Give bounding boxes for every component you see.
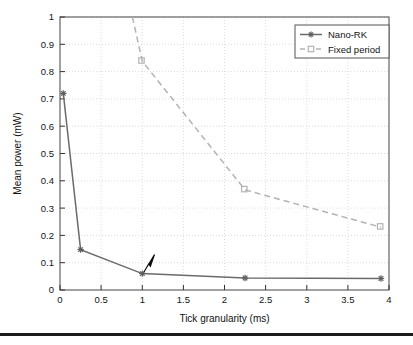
y-tick-label: 0.3 [41, 203, 54, 214]
y-tick-label: 0 [49, 284, 54, 295]
y-axis-tick-labels: 0 0.1 0.2 0.3 0.4 0.5 0.6 0.7 0.8 0.9 1 [41, 11, 54, 295]
x-tick-label: 2 [222, 294, 227, 305]
x-tick-label: 2.5 [259, 294, 272, 305]
y-tick-label: 0.7 [41, 93, 54, 104]
legend-label: Nano-RK [328, 29, 368, 40]
y-tick-label: 0.1 [41, 257, 54, 268]
y-tick-label: 0.5 [41, 148, 54, 159]
x-tick-label: 1 [140, 294, 145, 305]
y-tick-label: 0.9 [41, 39, 54, 50]
legend-label: Fixed period [328, 44, 380, 55]
y-tick-label: 0.8 [41, 66, 54, 77]
x-tick-label: 1.5 [177, 294, 190, 305]
y-tick-label: 0.2 [41, 230, 54, 241]
legend[interactable]: Nano-RK Fixed period [295, 25, 389, 58]
legend-marker-open-square-icon [308, 46, 313, 51]
figure-container: 0 0.1 0.2 0.3 0.4 0.5 0.6 0.7 0.8 0.9 1 … [0, 0, 413, 345]
y-tick-label: 0.6 [41, 121, 54, 132]
y-axis-title: Mean power (mW) [12, 112, 23, 194]
y-tick-label: 1 [49, 11, 54, 22]
x-tick-label: 0 [57, 294, 62, 305]
x-tick-label: 3 [304, 294, 309, 305]
page-separator-rule [0, 333, 413, 336]
x-tick-label: 4 [386, 294, 391, 305]
x-tick-label: 3.5 [341, 294, 354, 305]
x-tick-label: 0.5 [94, 294, 107, 305]
mean-power-vs-tick-granularity-chart: 0 0.1 0.2 0.3 0.4 0.5 0.6 0.7 0.8 0.9 1 … [0, 0, 413, 345]
y-tick-label: 0.4 [41, 175, 54, 186]
x-axis-title: Tick granularity (ms) [179, 313, 269, 324]
x-axis-tick-labels: 0 0.5 1 1.5 2 2.5 3 3.5 4 [57, 294, 391, 305]
